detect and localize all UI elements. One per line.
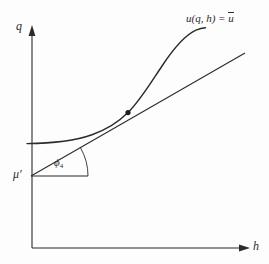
indifference-curve [27, 28, 206, 144]
angle-label: ϕ4 [54, 157, 63, 170]
curve-equation-label: u(q, h) = u [186, 12, 234, 24]
angle-subscript: 4 [60, 162, 64, 170]
angle-arc [80, 148, 88, 176]
mu-prime-intercept-label: μ′ [13, 168, 22, 180]
curve-equation-prefix: u(q, h) = [186, 12, 228, 24]
y-axis-arrowhead-icon [29, 25, 36, 36]
diagram-canvas [0, 0, 269, 264]
y-axis [29, 25, 36, 248]
x-axis-label: h [253, 240, 259, 252]
y-axis-label: q [16, 20, 22, 32]
x-axis-arrowhead-icon [239, 245, 250, 252]
curve-equation-level: u [228, 12, 234, 24]
figure-container: q h u(q, h) = u μ′ ϕ4 [0, 0, 269, 264]
x-axis [32, 245, 250, 252]
tangency-point-marker [125, 110, 130, 115]
